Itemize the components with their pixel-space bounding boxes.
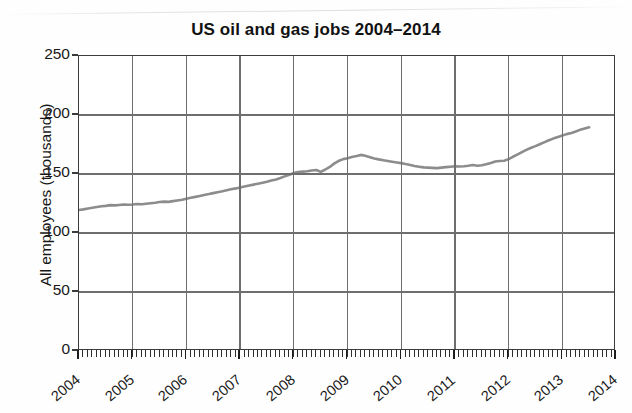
x-minor-tick xyxy=(315,350,316,357)
x-minor-tick xyxy=(405,350,406,357)
x-tick-label-2007: 2007 xyxy=(209,371,244,404)
x-minor-tick xyxy=(230,350,231,357)
x-minor-tick xyxy=(490,350,491,357)
x-tick-label-2013: 2013 xyxy=(531,371,566,404)
x-minor-tick xyxy=(199,350,200,357)
x-major-tick-2009 xyxy=(346,350,347,359)
x-tick-label-2008: 2008 xyxy=(263,371,298,404)
x-minor-tick xyxy=(512,350,513,357)
x-minor-tick xyxy=(288,350,289,357)
x-minor-tick xyxy=(266,350,267,357)
x-minor-tick xyxy=(159,350,160,357)
x-minor-tick xyxy=(566,350,567,357)
y-tick-mark-250 xyxy=(72,54,78,55)
x-minor-tick xyxy=(279,350,280,357)
x-minor-tick xyxy=(306,350,307,357)
x-minor-tick xyxy=(91,350,92,357)
x-tick-label-2005: 2005 xyxy=(102,371,137,404)
x-minor-tick xyxy=(458,350,459,357)
x-minor-tick xyxy=(244,350,245,357)
x-minor-tick xyxy=(150,350,151,357)
x-minor-tick xyxy=(253,350,254,357)
chart-figure: US oil and gas jobs 2004–2014 All employ… xyxy=(0,0,632,413)
x-major-tick-2014 xyxy=(614,350,615,359)
x-minor-tick xyxy=(96,350,97,357)
x-minor-tick xyxy=(355,350,356,357)
x-minor-tick xyxy=(449,350,450,357)
x-minor-tick xyxy=(463,350,464,357)
x-major-tick-2011 xyxy=(453,350,454,359)
x-minor-tick xyxy=(467,350,468,357)
x-minor-tick xyxy=(154,350,155,357)
x-minor-tick xyxy=(552,350,553,357)
x-minor-tick xyxy=(382,350,383,357)
x-minor-tick xyxy=(396,350,397,357)
x-major-tick-2010 xyxy=(400,350,401,359)
y-tick-label-200: 200 xyxy=(10,104,70,122)
x-tick-label-2004: 2004 xyxy=(48,371,83,404)
y-tick-mark-50 xyxy=(72,290,78,291)
plot-area xyxy=(78,55,615,350)
x-minor-tick xyxy=(427,350,428,357)
x-minor-tick xyxy=(297,350,298,357)
x-minor-tick xyxy=(530,350,531,357)
x-minor-tick xyxy=(548,350,549,357)
x-major-tick-2005 xyxy=(131,350,132,359)
x-minor-tick xyxy=(123,350,124,357)
x-minor-tick xyxy=(212,350,213,357)
x-minor-tick xyxy=(333,350,334,357)
y-tick-label-50: 50 xyxy=(10,281,70,299)
x-minor-tick xyxy=(105,350,106,357)
x-minor-tick xyxy=(414,350,415,357)
gridline-x-2013 xyxy=(562,56,563,349)
x-minor-tick xyxy=(476,350,477,357)
y-axis-title: All employees (thousands) xyxy=(37,45,55,345)
x-minor-tick xyxy=(575,350,576,357)
x-minor-tick xyxy=(270,350,271,357)
x-major-tick-2012 xyxy=(507,350,508,359)
x-tick-label-2011: 2011 xyxy=(424,372,458,404)
x-minor-tick xyxy=(302,350,303,357)
x-minor-tick xyxy=(503,350,504,357)
gridline-x-2005 xyxy=(132,56,133,349)
x-minor-tick xyxy=(526,350,527,357)
y-tick-mark-100 xyxy=(72,231,78,232)
x-minor-tick xyxy=(82,350,83,357)
x-minor-tick xyxy=(602,350,603,357)
x-tick-label-2014: 2014 xyxy=(585,371,620,404)
x-minor-tick xyxy=(226,350,227,357)
x-minor-tick xyxy=(364,350,365,357)
x-minor-tick xyxy=(597,350,598,357)
x-minor-tick xyxy=(217,350,218,357)
x-minor-tick xyxy=(557,350,558,357)
x-minor-tick xyxy=(436,350,437,357)
x-minor-tick xyxy=(445,350,446,357)
x-minor-tick xyxy=(311,350,312,357)
y-tick-label-150: 150 xyxy=(10,163,70,181)
x-minor-tick xyxy=(534,350,535,357)
x-minor-tick xyxy=(181,350,182,357)
x-major-tick-2004 xyxy=(77,350,78,359)
x-minor-tick xyxy=(579,350,580,357)
x-minor-tick xyxy=(172,350,173,357)
x-major-tick-2006 xyxy=(185,350,186,359)
x-major-tick-2008 xyxy=(292,350,293,359)
x-minor-tick xyxy=(409,350,410,357)
x-minor-tick xyxy=(481,350,482,357)
x-minor-tick xyxy=(284,350,285,357)
x-minor-tick xyxy=(432,350,433,357)
x-tick-label-2010: 2010 xyxy=(370,371,405,404)
x-minor-tick xyxy=(176,350,177,357)
x-minor-tick xyxy=(194,350,195,357)
x-minor-tick xyxy=(221,350,222,357)
x-minor-tick xyxy=(606,350,607,357)
x-minor-tick xyxy=(378,350,379,357)
gridline-x-2007 xyxy=(239,56,240,349)
x-minor-tick xyxy=(423,350,424,357)
gridline-x-2006 xyxy=(186,56,187,349)
x-minor-tick xyxy=(168,350,169,357)
x-minor-tick xyxy=(208,350,209,357)
chart-title: US oil and gas jobs 2004–2014 xyxy=(0,20,632,40)
y-tick-mark-200 xyxy=(72,113,78,114)
x-minor-tick xyxy=(611,350,612,357)
